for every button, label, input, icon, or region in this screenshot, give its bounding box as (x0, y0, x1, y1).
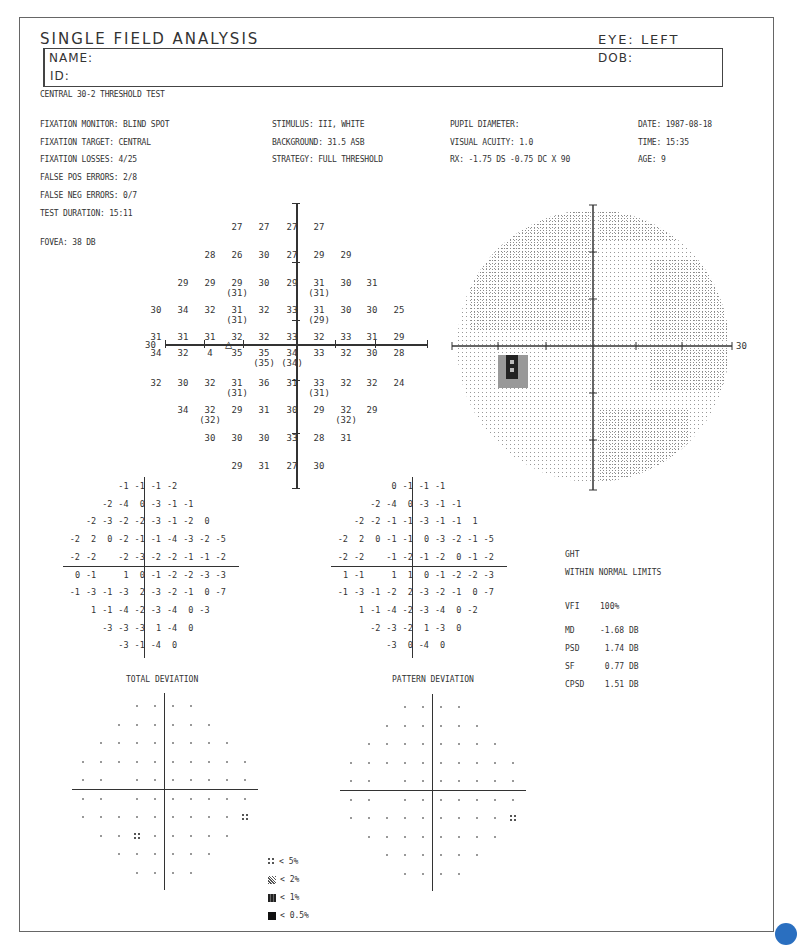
deviation-value: 2 (129, 587, 145, 597)
probability-normal-dot (476, 780, 478, 782)
probability-normal-dot (118, 742, 120, 744)
probability-normal-dot (440, 854, 442, 856)
threshold-value: 30 (307, 461, 331, 471)
probability-normal-dot (458, 799, 460, 801)
probability-normal-dot (136, 872, 138, 874)
probability-normal-dot (82, 779, 84, 781)
deviation-value: -3 (80, 587, 96, 597)
deviation-value: -4 (381, 499, 397, 509)
probability-normal-dot (512, 780, 514, 782)
deviation-value: -2 (429, 587, 445, 597)
axis-tick (292, 320, 300, 321)
deviation-value: -2 (96, 499, 112, 509)
threshold-value: 29 (225, 278, 249, 288)
threshold-value: 31 (334, 433, 358, 443)
probability-normal-dot (226, 779, 228, 781)
deviation-value: -4 (381, 605, 397, 615)
deviation-value: -1 (348, 570, 364, 580)
probability-normal-dot (404, 817, 406, 819)
parameter-line: TEST DURATION: 15:11 (40, 209, 132, 218)
axis-tick (204, 340, 205, 348)
parameter-line: VISUAL ACUITY: 1.0 (450, 138, 533, 147)
probability-normal-dot (422, 817, 424, 819)
deviation-value: -2 (145, 552, 161, 562)
axis-tick (243, 340, 244, 348)
probability-normal-dot (172, 872, 174, 874)
deviation-value: -1 (177, 587, 193, 597)
probability-normal-dot (458, 873, 460, 875)
deviation-value: -2 (478, 552, 494, 562)
probability-normal-dot (350, 817, 352, 819)
probability-normal-dot (100, 779, 102, 781)
probability-normal-dot (100, 761, 102, 763)
deviation-value: 0 (129, 499, 145, 509)
parameter-line: STIMULUS: III, WHITE (272, 120, 364, 129)
deviation-value: 0 (462, 587, 478, 597)
threshold-value: 27 (280, 222, 304, 232)
deviation-value: 1 (113, 570, 129, 580)
probability-normal-dot (208, 853, 210, 855)
probability-normal-dot (208, 816, 210, 818)
probability-normal-dot (172, 724, 174, 726)
probability-normal-dot (494, 817, 496, 819)
probability-normal-dot (190, 724, 192, 726)
probability-normal-dot (476, 836, 478, 838)
deviation-value: -1 (381, 516, 397, 526)
axis-tick (375, 340, 376, 348)
deviation-value: -2 (332, 534, 348, 544)
probability-normal-dot (118, 835, 120, 837)
threshold-value: 32 (360, 378, 384, 388)
deviation-value: 0 (413, 570, 429, 580)
threshold-value: 35 (252, 348, 276, 358)
deviation-value: -1 (381, 534, 397, 544)
deviation-value: -2 (194, 534, 210, 544)
parameter-line: FALSE POS ERRORS: 2/8 (40, 173, 137, 182)
probability-normal-dot (226, 742, 228, 744)
parameter-line: FIXATION LOSSES: 4/25 (40, 155, 137, 164)
report-title: SINGLE FIELD ANALYSIS (40, 30, 259, 48)
deviation-value: -1 (445, 587, 461, 597)
parameter-line: FIXATION TARGET: CENTRAL (40, 138, 151, 147)
probability-normal-dot (190, 705, 192, 707)
threshold-value: 30 (334, 278, 358, 288)
probability-normal-dot (154, 724, 156, 726)
deviation-value: -2 (445, 534, 461, 544)
index-label: VFI (565, 602, 579, 611)
threshold-value: 30 (252, 433, 276, 443)
threshold-value: 32 (252, 332, 276, 342)
deviation-value: 0 (129, 570, 145, 580)
probability-normal-dot (244, 761, 246, 763)
deviation-value: -1 (145, 570, 161, 580)
deviation-value: 0 (397, 640, 413, 650)
threshold-value: 30 (198, 433, 222, 443)
probability-normal-dot (136, 853, 138, 855)
deviation-value: -1 (462, 552, 478, 562)
deviation-horizontal-axis (331, 566, 507, 567)
probability-normal-dot (404, 762, 406, 764)
deviation-value: -2 (113, 534, 129, 544)
probability-normal-dot (172, 761, 174, 763)
probability-normal-dot (404, 706, 406, 708)
probability-normal-dot (154, 853, 156, 855)
threshold-repeat-value: (31) (225, 388, 249, 398)
probability-normal-dot (208, 779, 210, 781)
threshold-value: 30 (360, 305, 384, 315)
probability-normal-dot (422, 762, 424, 764)
probability-normal-dot (244, 779, 246, 781)
deviation-value: -3 (413, 516, 429, 526)
deviation-value: -3 (413, 587, 429, 597)
probability-normal-dot (190, 742, 192, 744)
eye-label: EYE: LEFT (598, 32, 680, 47)
probability-normal-dot (440, 836, 442, 838)
deviation-value: -2 (177, 516, 193, 526)
threshold-value: 31 (307, 305, 331, 315)
deviation-value: 1 (397, 570, 413, 580)
probability-normal-dot (190, 835, 192, 837)
legend-item-dense: < 1% (268, 893, 299, 902)
probability-normal-dot (476, 817, 478, 819)
deviation-value: -3 (210, 570, 226, 580)
probability-normal-dot (154, 761, 156, 763)
deviation-value: -4 (413, 640, 429, 650)
deviation-value: -3 (113, 623, 129, 633)
deviation-value: -2 (113, 552, 129, 562)
